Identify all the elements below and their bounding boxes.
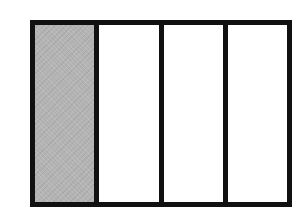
fraction-rectangle <box>30 20 292 207</box>
part-1-shaded <box>35 25 94 202</box>
part-3-unshaded <box>159 25 223 202</box>
canvas <box>0 0 305 212</box>
part-2-unshaded <box>94 25 158 202</box>
part-4-unshaded <box>223 25 287 202</box>
